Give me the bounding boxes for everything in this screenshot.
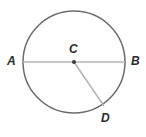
circle-diagram-figure: A B C D	[0, 0, 146, 137]
center-point-dot	[72, 60, 76, 64]
geometry-canvas	[0, 0, 146, 137]
point-label-a: A	[7, 55, 16, 67]
point-label-c: C	[69, 43, 78, 55]
point-label-d: D	[101, 112, 110, 124]
radius-segment-cd	[74, 62, 104, 106]
point-label-b: B	[131, 55, 140, 67]
